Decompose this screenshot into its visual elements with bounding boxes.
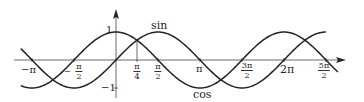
x-tick-label-pi: π — [196, 64, 203, 74]
x-tick-label-minus-pi-over-2: π 2 — [75, 63, 82, 81]
cos-label: cos — [193, 89, 211, 100]
x-tick-label-three-pi-over-2: 3π 2 — [241, 62, 253, 80]
sin-label: sin — [151, 20, 167, 31]
x-tick-label-two-pi: 2π — [280, 64, 294, 75]
x-tick-label-minus-sign: − — [64, 68, 71, 76]
x-tick-label-pi-over-4: π 4 — [133, 63, 140, 81]
x-tick-label-minus-pi: −π — [21, 65, 36, 75]
x-tick-label-five-pi-over-2: 5π 2 — [318, 62, 330, 80]
plot-area — [0, 0, 364, 102]
y-tick-label-one: 1 — [106, 25, 112, 35]
x-tick-label-pi-over-2: π 2 — [154, 63, 161, 81]
y-tick-label-minus-one: −1 — [101, 83, 116, 93]
